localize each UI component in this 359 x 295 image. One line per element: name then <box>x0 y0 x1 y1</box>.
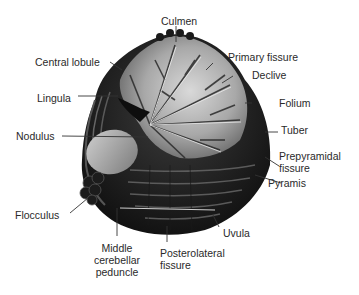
label-lingula: Lingula <box>37 92 71 104</box>
label-declive: Declive <box>252 69 286 81</box>
label-posterolateral-fissure-line2: fissure <box>160 259 225 271</box>
label-prepyramidal-fissure-line2: fissure <box>279 162 341 174</box>
label-folium: Folium <box>279 97 311 109</box>
label-tuber: Tuber <box>281 124 308 136</box>
label-uvula: Uvula <box>223 227 250 239</box>
label-central-lobule: Central lobule <box>35 56 100 68</box>
label-flocculus: Flocculus <box>15 209 59 221</box>
label-nodulus: Nodulus <box>16 130 55 142</box>
label-prepyramidal-fissure-line1: Prepyramidal <box>279 150 341 162</box>
label-pyramis: Pyramis <box>268 177 306 189</box>
label-culmen: Culmen <box>161 15 197 27</box>
cerebellum-diagram: Culmen Central lobule Primary fissure De… <box>0 0 359 295</box>
label-middle-cerebellar-peduncle-line1: Middle <box>86 242 148 254</box>
label-posterolateral-fissure-line1: Posterolateral <box>160 247 225 259</box>
label-primary-fissure: Primary fissure <box>228 51 298 63</box>
label-posterolateral-fissure: Posterolateral fissure <box>160 247 225 271</box>
label-prepyramidal-fissure: Prepyramidal fissure <box>279 150 341 174</box>
label-middle-cerebellar-peduncle: Middle cerebellar peduncle <box>86 242 148 278</box>
label-middle-cerebellar-peduncle-line2: cerebellar <box>86 254 148 266</box>
label-middle-cerebellar-peduncle-line3: peduncle <box>86 266 148 278</box>
